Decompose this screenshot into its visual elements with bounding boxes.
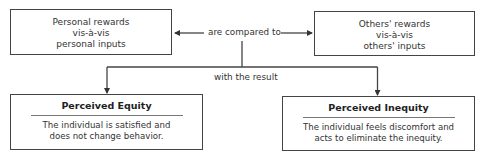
inequity-line-1: The individual feels discomfort and bbox=[283, 122, 474, 133]
equity-title: Perceived Equity bbox=[11, 100, 202, 112]
perceived-inequity-box: Perceived Inequity The individual feels … bbox=[282, 96, 475, 151]
others-rewards-box: Others' rewards vis-à-vis others' inputs bbox=[314, 11, 475, 56]
inequity-description: The individual feels discomfort and acts… bbox=[283, 122, 474, 144]
perceived-equity-box: Perceived Equity The individual is satis… bbox=[10, 94, 203, 150]
personal-rewards-box: Personal rewards vis-à-vis personal inpu… bbox=[10, 9, 172, 55]
compare-label: are compared to bbox=[208, 27, 281, 37]
others-line-2: vis-à-vis bbox=[315, 30, 474, 41]
inequity-line-2: acts to eliminate the inequity. bbox=[283, 133, 474, 144]
personal-line-3: personal inputs bbox=[11, 39, 171, 50]
equity-description: The individual is satisfied and does not… bbox=[11, 120, 202, 142]
inequity-divider bbox=[303, 117, 455, 118]
personal-line-1: Personal rewards bbox=[11, 17, 171, 28]
inequity-title: Perceived Inequity bbox=[283, 102, 474, 114]
result-label: with the result bbox=[214, 72, 278, 82]
equity-divider bbox=[31, 115, 183, 116]
others-line-1: Others' rewards bbox=[315, 19, 474, 30]
personal-line-2: vis-à-vis bbox=[11, 28, 171, 39]
equity-line-1: The individual is satisfied and bbox=[11, 120, 202, 131]
equity-line-2: does not change behavior. bbox=[11, 131, 202, 142]
others-line-3: others' inputs bbox=[315, 41, 474, 52]
